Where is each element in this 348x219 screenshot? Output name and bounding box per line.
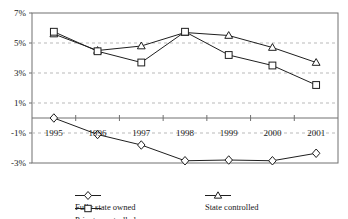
data-point-diamond xyxy=(84,192,91,200)
line-chart xyxy=(0,0,348,219)
x-tick-label: 2001 xyxy=(296,129,336,138)
data-point-square xyxy=(50,28,57,35)
data-point-square xyxy=(225,52,232,59)
legend-marker-square-icon xyxy=(75,203,101,214)
legend-label: State controlled xyxy=(205,202,259,212)
y-tick-label: 7% xyxy=(0,9,26,18)
data-point-square xyxy=(269,62,276,69)
data-point-square xyxy=(85,205,91,211)
y-tick-label: 1% xyxy=(0,99,26,108)
legend-marker-diamond-icon xyxy=(75,190,101,201)
data-point-square xyxy=(313,82,320,89)
chart-container: 7%5%3%1%-1%-3% 1995199619971998199920002… xyxy=(0,0,348,219)
data-point-square xyxy=(182,28,189,35)
y-tick-label: 3% xyxy=(0,69,26,78)
y-tick-label: -1% xyxy=(0,129,26,138)
x-tick-label: 2000 xyxy=(252,129,292,138)
data-point-square xyxy=(138,59,145,66)
y-tick-label: 5% xyxy=(0,39,26,48)
x-tick-label: 1997 xyxy=(121,129,161,138)
data-point-square xyxy=(94,48,101,55)
x-tick-label: 1999 xyxy=(209,129,249,138)
y-tick-label: -3% xyxy=(0,159,26,168)
x-tick-label: 1998 xyxy=(165,129,205,138)
legend-item[interactable]: State controlled xyxy=(205,190,259,212)
legend-marker-triangle-icon xyxy=(205,190,231,201)
legend-item[interactable]: Private controlled xyxy=(75,203,136,219)
x-tick-label: 1996 xyxy=(78,129,118,138)
legend-label: Private controlled xyxy=(75,215,136,219)
data-point-triangle xyxy=(214,192,221,198)
x-tick-label: 1995 xyxy=(34,129,74,138)
